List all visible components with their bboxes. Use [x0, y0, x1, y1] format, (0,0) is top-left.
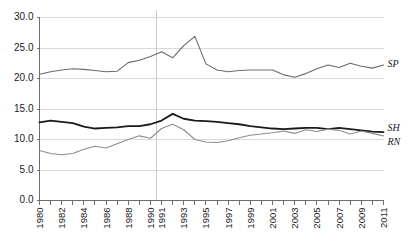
- x-tick-label: 1986: [101, 208, 112, 229]
- x-tick-label: 1984: [78, 208, 89, 229]
- x-tick-label: 2005: [311, 208, 322, 229]
- x-tick-label: 2001: [267, 208, 278, 229]
- x-tick-label: 1995: [200, 208, 211, 229]
- y-tick-label: 30.0: [14, 11, 34, 22]
- x-tick-label: 2009: [356, 208, 367, 229]
- x-tickmarks: [40, 201, 384, 205]
- x-tick-label: 1988: [123, 208, 134, 229]
- series-label-sh: SH: [388, 122, 401, 133]
- x-tick-label: 1993: [178, 208, 189, 229]
- x-tick-label: 1982: [56, 208, 67, 229]
- x-tick-label: 2007: [334, 208, 345, 229]
- y-tick-label: 10.0: [14, 133, 34, 144]
- y-tick-label: 25.0: [14, 42, 34, 53]
- x-tick-label: 1980: [34, 208, 45, 229]
- series-label-rn: RN: [387, 136, 402, 147]
- series-end-labels: SPSHRN: [387, 58, 402, 147]
- y-tick-label: 5.0: [20, 164, 34, 175]
- x-tick-label: 1990: [145, 208, 156, 229]
- x-axis-labels: 1980198219841986198819901991199319951997…: [34, 208, 389, 229]
- x-tick-label: 2003: [289, 208, 300, 229]
- chart-canvas: 0.05.010.015.020.025.030.0 1980198219841…: [0, 0, 415, 245]
- data-series: [40, 36, 384, 154]
- series-line-sp: [40, 36, 384, 77]
- y-axis-labels: 0.05.010.015.020.025.030.0: [14, 11, 34, 205]
- y-tick-label: 0.0: [20, 194, 34, 205]
- x-tick-label: 1997: [223, 208, 234, 229]
- x-tick-label: 1999: [245, 208, 256, 229]
- y-tick-label: 15.0: [14, 103, 34, 114]
- x-tick-label: 2011: [378, 208, 389, 228]
- series-label-sp: SP: [388, 58, 399, 69]
- x-tick-label: 1991: [156, 208, 167, 229]
- line-chart: 0.05.010.015.020.025.030.0 1980198219841…: [0, 0, 415, 245]
- y-tick-label: 20.0: [14, 72, 34, 83]
- gridlines: [40, 18, 384, 201]
